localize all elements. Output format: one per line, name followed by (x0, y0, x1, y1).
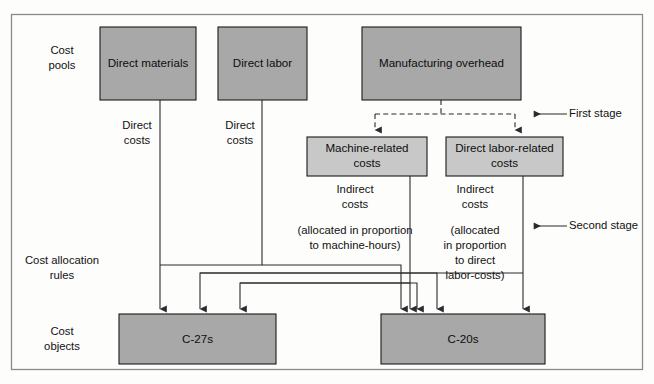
cost-allocation-diagram: Cost pools Cost allocation rules Cost ob… (0, 0, 654, 384)
note-machine-hours-line2: to machine-hours) (309, 239, 400, 251)
box-machine-related-costs: Machine-related costs (307, 137, 427, 176)
box-manufacturing-overhead-label: Manufacturing overhead (379, 56, 504, 69)
row-label-cost-pools-line1: Cost (50, 44, 74, 56)
stage-marker-second-stage: Second stage (534, 219, 638, 231)
flow-indirect-costs-labor-line2: costs (462, 198, 489, 210)
connector-bus-to-c20s-b (240, 283, 417, 309)
box-direct-materials: Direct materials (100, 27, 196, 100)
box-machine-related-line2: costs (353, 156, 380, 169)
flow-label-indirect-costs-machine: Indirect costs (336, 183, 374, 210)
note-labor-costs-line3: to direct (455, 254, 496, 266)
box-c-27s-label: C-27s (182, 332, 213, 345)
note-machine-hours-line1: (allocated in proportion (298, 224, 413, 236)
diagram-canvas: Cost pools Cost allocation rules Cost ob… (0, 0, 654, 384)
allocation-note-direct-labor-costs: (allocated in proportion to direct labor… (444, 224, 507, 281)
box-manufacturing-overhead: Manufacturing overhead (362, 27, 521, 100)
row-label-objects-line2: objects (44, 340, 80, 352)
flow-direct-costs-labor-line1: Direct (225, 119, 255, 131)
connector-machine-related-to-c27s (240, 283, 410, 309)
box-direct-labor-label: Direct labor (233, 56, 292, 69)
box-direct-labor: Direct labor (218, 27, 307, 100)
flow-indirect-costs-machine-line2: costs (342, 198, 369, 210)
box-machine-related-line1: Machine-related (325, 141, 408, 154)
note-labor-costs-line1: (allocated (451, 224, 500, 236)
flow-label-direct-costs-labor: Direct costs (225, 119, 255, 146)
note-labor-costs-line2: in proportion (444, 239, 507, 251)
note-labor-costs-line4: labor-costs) (445, 269, 504, 281)
flow-indirect-costs-labor-line1: Indirect (456, 183, 494, 195)
flow-direct-costs-materials-line1: Direct (122, 119, 152, 131)
first-stage-label: First stage (569, 107, 622, 119)
flow-direct-costs-materials-line2: costs (124, 134, 151, 146)
row-label-cost-pools: Cost pools (48, 44, 75, 71)
box-c-20s-label: C-20s (448, 332, 479, 345)
box-labor-related-line1: Direct labor-related (455, 141, 554, 154)
second-stage-label: Second stage (569, 219, 638, 231)
box-labor-related-line2: costs (491, 156, 518, 169)
flow-direct-costs-labor-line2: costs (227, 134, 254, 146)
flow-indirect-costs-machine-line1: Indirect (336, 183, 374, 195)
row-label-cost-allocation-rules: Cost allocation rules (25, 254, 99, 281)
stage-marker-first-stage: First stage (534, 107, 622, 119)
row-label-rules-line1: Cost allocation (25, 254, 99, 266)
flow-label-indirect-costs-labor: Indirect costs (456, 183, 494, 210)
box-direct-labor-related-costs: Direct labor-related costs (446, 137, 563, 176)
box-c-20s: C-20s (381, 314, 545, 364)
row-label-cost-objects: Cost objects (44, 325, 80, 352)
row-label-rules-line2: rules (50, 269, 75, 281)
row-label-objects-line1: Cost (50, 325, 74, 337)
box-c-27s: C-27s (119, 314, 276, 364)
box-direct-materials-label: Direct materials (108, 56, 189, 69)
flow-label-direct-costs-materials: Direct costs (122, 119, 152, 146)
row-label-cost-pools-line2: pools (48, 59, 75, 71)
allocation-note-machine-hours: (allocated in proportion to machine-hour… (298, 224, 413, 251)
connector-direct-labor-to-c20s (262, 265, 401, 309)
